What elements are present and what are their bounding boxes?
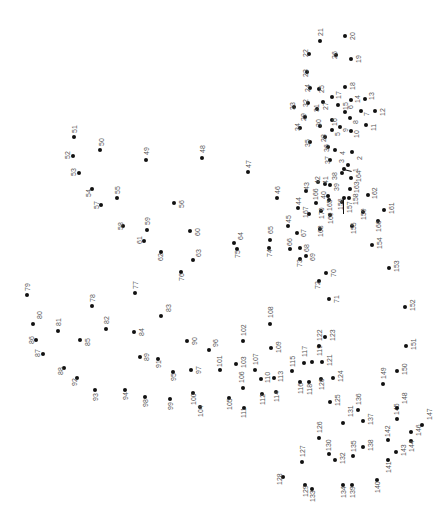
dot-4	[333, 148, 337, 152]
dot-to-dot-puzzle: 1234567891011121314151617181920212223242…	[0, 0, 446, 521]
dot-label: 138	[367, 439, 374, 451]
dot-label: 163	[353, 181, 360, 193]
dot-158	[347, 196, 351, 200]
dot-label: 2	[356, 156, 363, 160]
dot-label: 77	[132, 281, 139, 289]
dot-label: 67	[300, 229, 307, 237]
dot-11	[364, 123, 368, 127]
dot-label: 170	[318, 207, 325, 219]
dot-115	[290, 369, 294, 373]
dot-label: 50	[98, 138, 105, 146]
dot-label: 10	[353, 130, 360, 138]
dot-142	[386, 438, 390, 442]
dot-label: 64	[237, 232, 244, 240]
dot-113	[272, 376, 276, 380]
dot-label: 148	[401, 392, 408, 404]
dot-label: 139	[349, 486, 356, 498]
dot-label: 108	[267, 306, 274, 318]
dot-label: 87	[34, 349, 41, 357]
dot-103	[234, 362, 238, 366]
dot-label: 121	[326, 354, 333, 366]
dot-52	[71, 154, 75, 158]
dot-label: 35	[304, 139, 311, 147]
dot-label: 63	[195, 249, 202, 257]
dot-19	[349, 57, 353, 61]
dot-label: 39	[333, 183, 340, 191]
dot-102	[241, 339, 245, 343]
dot-12	[373, 109, 377, 113]
dot-109	[269, 346, 273, 350]
dot-label: 164	[355, 170, 362, 182]
dot-117	[302, 361, 306, 365]
dot-label: 115	[289, 356, 296, 367]
dot-label: 154	[376, 237, 383, 249]
dot-label: 34	[294, 123, 301, 131]
dot-label: 9	[342, 128, 349, 132]
dot-17	[330, 95, 334, 99]
dot-label: 30	[315, 119, 322, 127]
dot-label: 136	[355, 393, 362, 405]
dot-label: 128	[276, 473, 283, 485]
dot-21	[318, 39, 322, 43]
dot-69	[304, 254, 308, 258]
dot-55	[115, 196, 119, 200]
dot-148	[395, 406, 399, 410]
dot-119	[310, 360, 314, 364]
dot-label: 79	[24, 283, 31, 291]
dot-93	[93, 388, 97, 392]
dot-136	[356, 408, 360, 412]
dot-label: 135	[350, 440, 357, 452]
dot-label: 16	[331, 118, 338, 126]
dot-label: 161	[388, 202, 395, 214]
dot-label: 59	[144, 217, 151, 225]
dot-47	[246, 170, 250, 174]
dot-147	[420, 423, 424, 427]
dot-97	[189, 368, 193, 372]
dot-label: 62	[157, 253, 164, 261]
dot-label: 56	[178, 200, 185, 208]
dot-label: 125	[334, 394, 341, 406]
dot-label: 86	[28, 336, 35, 344]
dot-162	[366, 193, 370, 197]
dot-label: 165	[326, 199, 333, 211]
dot-96	[207, 348, 211, 352]
dot-label: 33	[289, 102, 296, 110]
dot-135	[351, 454, 355, 458]
dot-label: 36	[323, 144, 330, 152]
dot-89	[138, 355, 142, 359]
dot-20	[343, 34, 347, 38]
dot-124	[331, 376, 335, 380]
dot-132	[333, 458, 337, 462]
dot-label: 134	[340, 486, 347, 498]
dot-65	[268, 238, 272, 242]
dot-label: 100	[190, 393, 197, 405]
dot-66	[288, 247, 292, 251]
dot-label: 82	[103, 316, 110, 324]
dot-label: 15	[342, 102, 349, 110]
dot-label: 57	[93, 201, 100, 209]
dot-64	[232, 241, 236, 245]
dot-label: 20	[349, 32, 356, 40]
dot-label: 129	[302, 485, 309, 497]
dot-13	[363, 97, 367, 101]
dot-label: 103	[240, 356, 247, 368]
dot-label: 132	[339, 452, 346, 464]
dot-label: 11	[370, 124, 377, 131]
dot-101	[218, 368, 222, 372]
dot-label: 142	[384, 425, 391, 437]
dot-14	[349, 98, 353, 102]
dot-label: 24	[304, 84, 311, 92]
dot-label: 127	[299, 445, 306, 457]
dot-label: 40	[320, 191, 327, 199]
dot-label: 89	[143, 353, 150, 361]
dot-label: 110	[264, 372, 271, 383]
dot-107	[253, 368, 257, 372]
dot-81	[56, 329, 60, 333]
dot-label: 41	[322, 176, 329, 184]
dot-label: 111	[240, 407, 247, 418]
dot-label: 4	[339, 151, 346, 155]
dot-56	[172, 201, 176, 205]
dot-label: 21	[317, 28, 324, 36]
dot-label: 76	[178, 273, 185, 281]
dot-label: 97	[195, 366, 202, 374]
